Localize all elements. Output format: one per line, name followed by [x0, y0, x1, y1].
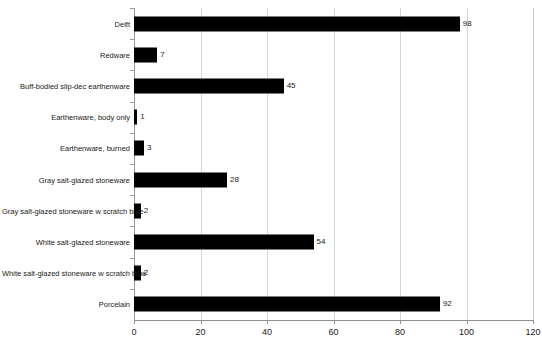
bar-value-label: 54 — [314, 237, 326, 247]
category-label: Redware — [2, 50, 130, 59]
plot-area: 987451328254292 — [134, 8, 533, 320]
category-label: White salt-glazed stoneware w scratch bl… — [2, 269, 130, 278]
category-label: Earthenware, body only — [2, 113, 130, 122]
bar — [134, 234, 314, 249]
bar-value-label: 45 — [284, 81, 296, 91]
x-axis-tick-0 — [134, 320, 135, 324]
y-axis-tick — [130, 289, 134, 290]
y-axis-tick — [130, 164, 134, 165]
y-axis-tick — [130, 133, 134, 134]
bar-row: 92 — [134, 289, 533, 320]
y-axis-tick — [130, 258, 134, 259]
bar-value-label: 98 — [460, 19, 472, 29]
y-axis-tick — [130, 226, 134, 227]
x-axis-tick-100 — [467, 320, 468, 324]
bar-row: 54 — [134, 226, 533, 257]
bar — [134, 47, 157, 62]
x-axis-tick-20 — [201, 320, 202, 324]
x-axis-tick-label: 60 — [328, 327, 338, 338]
x-axis-tick-label: 20 — [195, 327, 205, 338]
category-label: Delft — [2, 19, 130, 28]
bar-row: 98 — [134, 8, 533, 39]
bar-row: 3 — [134, 133, 533, 164]
y-axis-tick — [130, 195, 134, 196]
bar-row: 2 — [134, 195, 533, 226]
x-axis-tick-label: 100 — [459, 327, 474, 338]
bar-row: 28 — [134, 164, 533, 195]
bar — [134, 78, 284, 93]
x-axis-tick-label: 80 — [395, 327, 405, 338]
bar-value-label: 92 — [440, 299, 452, 309]
bar — [134, 172, 227, 187]
bar — [134, 16, 460, 31]
bar — [134, 297, 440, 312]
bar-value-label: 28 — [227, 175, 239, 185]
y-axis-tick — [130, 102, 134, 103]
bar-row: 45 — [134, 70, 533, 101]
x-axis-tick-120 — [533, 320, 534, 324]
bar-row: 1 — [134, 102, 533, 133]
x-axis-tick-40 — [267, 320, 268, 324]
x-axis-tick-label: 40 — [262, 327, 272, 338]
category-label: Earthenware, burned — [2, 144, 130, 153]
bar — [134, 141, 144, 156]
bar-value-label: 1 — [137, 112, 144, 122]
y-axis-tick — [130, 70, 134, 71]
bar-row: 7 — [134, 39, 533, 70]
y-axis-tick — [130, 39, 134, 40]
bar-chart: 987451328254292 DelftRedwareBuff-bodied … — [0, 0, 542, 347]
y-axis-tick — [130, 8, 134, 9]
category-label: Porcelain — [2, 300, 130, 309]
category-label: Buff-bodied slip-dec earthenware — [2, 82, 130, 91]
x-axis-tick-label: 120 — [525, 327, 540, 338]
x-axis-tick-80 — [400, 320, 401, 324]
category-label: Gray salt-glazed stoneware — [2, 175, 130, 184]
category-label: Gray salt-glazed stoneware w scratch blu… — [2, 206, 130, 215]
gridline-120 — [533, 8, 534, 320]
bar-value-label: 7 — [157, 50, 164, 60]
x-axis-tick-60 — [334, 320, 335, 324]
bar-value-label: 3 — [144, 143, 151, 153]
category-label: White salt-glazed stoneware — [2, 238, 130, 247]
x-axis-tick-label: 0 — [131, 327, 136, 338]
bar-row: 2 — [134, 258, 533, 289]
